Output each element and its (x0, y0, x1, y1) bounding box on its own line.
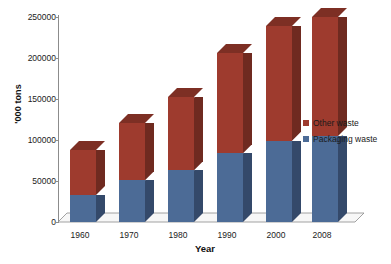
bar-side-face (145, 123, 154, 180)
y-tick-label-200000: 200000 (28, 53, 56, 63)
bar-front-face (217, 53, 243, 153)
bar-top-cap-1990 (217, 44, 252, 53)
bar-1990[interactable] (217, 53, 243, 222)
bar-side-face (243, 53, 252, 153)
legend-item-other-waste[interactable]: Other waste (303, 116, 377, 130)
legend-swatch-packaging-waste (303, 136, 309, 142)
bar-segment-other-1980[interactable] (168, 97, 194, 170)
bar-side-face (194, 170, 203, 222)
x-tick-label-1980: 1980 (169, 230, 188, 240)
bar-side-face (194, 97, 203, 170)
bar-side-face (243, 153, 252, 222)
bar-front-face (217, 153, 243, 222)
bar-top-cap-2008 (312, 8, 347, 17)
bar-front-face (168, 170, 194, 222)
bar-segment-other-2000[interactable] (266, 26, 292, 141)
bar-top-cap-2000 (266, 17, 301, 26)
chart-legend: Other waste Packaging waste (303, 116, 377, 148)
y-tick-label-250000: 250000 (28, 12, 56, 22)
bar-front-face (119, 180, 145, 222)
y-axis-labels: 250000 200000 150000 100000 50000 0 (0, 0, 56, 264)
bar-side-face (96, 150, 105, 195)
bar-front-face (119, 123, 145, 180)
chart-container: '000 tons 250000 200000 150000 100000 50… (0, 0, 391, 264)
bar-side-face (145, 180, 154, 222)
y-tick-label-150000: 150000 (28, 94, 56, 104)
bar-1980[interactable] (168, 97, 194, 222)
bar-segment-packaging-2008[interactable] (312, 136, 338, 222)
y-tick-label-100000: 100000 (28, 135, 56, 145)
bar-2000[interactable] (266, 26, 292, 222)
bar-segment-other-1990[interactable] (217, 53, 243, 153)
x-tick-label-2000: 2000 (267, 230, 286, 240)
bar-segment-packaging-2000[interactable] (266, 141, 292, 222)
legend-swatch-other-waste (303, 120, 309, 126)
bar-top-cap-1980 (168, 88, 203, 97)
x-tick-label-1990: 1990 (218, 230, 237, 240)
bar-segment-packaging-1960[interactable] (70, 195, 96, 222)
bar-segment-packaging-1980[interactable] (168, 170, 194, 222)
bar-side-face (96, 195, 105, 222)
bar-front-face (266, 141, 292, 222)
bar-front-face (70, 195, 96, 222)
bar-side-face (292, 141, 301, 222)
x-tick-label-2008: 2008 (313, 230, 332, 240)
bar-front-face (70, 150, 96, 195)
x-tick-label-1970: 1970 (120, 230, 139, 240)
bar-front-face (168, 97, 194, 170)
bar-side-face (292, 26, 301, 141)
legend-label-other-waste: Other waste (313, 118, 359, 128)
bar-segment-other-1970[interactable] (119, 123, 145, 180)
bar-1970[interactable] (119, 123, 145, 222)
bar-front-face (312, 136, 338, 222)
bar-segment-packaging-1970[interactable] (119, 180, 145, 222)
x-tick-label-1960: 1960 (71, 230, 90, 240)
bar-segment-other-1960[interactable] (70, 150, 96, 195)
bar-1960[interactable] (70, 150, 96, 222)
legend-label-packaging-waste: Packaging waste (313, 134, 377, 144)
y-tick-label-50000: 50000 (32, 176, 56, 186)
x-axis-title: Year (195, 243, 215, 254)
bar-top-cap-1970 (119, 114, 154, 123)
bar-top-cap-1960 (70, 141, 105, 150)
bar-front-face (266, 26, 292, 141)
bar-side-face (338, 136, 347, 222)
bar-segment-packaging-1990[interactable] (217, 153, 243, 222)
legend-item-packaging-waste[interactable]: Packaging waste (303, 132, 377, 146)
